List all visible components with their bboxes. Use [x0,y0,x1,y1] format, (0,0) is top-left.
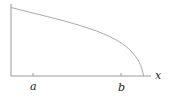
tick-label-a: a [30,80,37,93]
x-axis-label: x [155,69,162,82]
graph-canvas: a b x [0,0,170,101]
function-curve [11,8,144,77]
tick-label-b: b [118,81,125,94]
